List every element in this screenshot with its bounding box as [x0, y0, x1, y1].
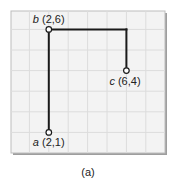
- node-c-label: c (6,4): [109, 75, 140, 87]
- node-a-label: a (2,1): [33, 136, 65, 148]
- node-c-marker: [124, 68, 130, 74]
- diagram-canvas: a (2,1)b (2,6)c (6,4) (a): [0, 0, 173, 183]
- node-a-marker: [46, 130, 52, 136]
- figure-caption: (a): [81, 166, 94, 178]
- node-b-marker: [46, 27, 52, 33]
- node-b-label: b (2,6): [33, 13, 65, 25]
